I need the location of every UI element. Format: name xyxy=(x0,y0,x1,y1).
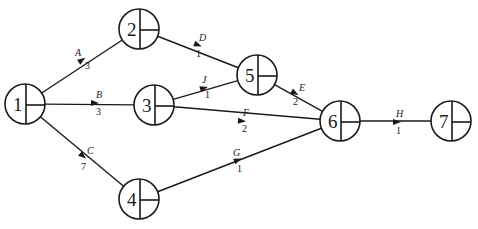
node-2: 2 xyxy=(119,9,159,49)
edge-b xyxy=(45,100,134,106)
node-number: 1 xyxy=(13,94,23,115)
duration-label: 3 xyxy=(85,60,90,71)
activity-label: B xyxy=(96,89,102,100)
duration-label: 1 xyxy=(196,48,201,59)
node-number: 2 xyxy=(127,19,137,40)
activity-label: J xyxy=(202,74,207,85)
duration-label: 1 xyxy=(205,89,210,100)
edge-line xyxy=(45,104,134,105)
node-circle xyxy=(119,179,159,219)
duration-label: 2 xyxy=(242,123,247,134)
network-diagram: 1234567 A3B3C7D1J1E2F2G1H1 xyxy=(0,0,478,229)
duration-label: 7 xyxy=(81,161,86,172)
edge-line xyxy=(42,40,123,93)
edge-g xyxy=(158,128,322,192)
activity-label: G xyxy=(233,147,240,158)
activity-label: H xyxy=(395,108,404,119)
activity-label: E xyxy=(298,82,305,93)
duration-label: 3 xyxy=(96,106,101,117)
edge-c xyxy=(40,117,123,186)
node-number: 4 xyxy=(127,189,137,210)
node-circle xyxy=(237,55,277,95)
node-circle xyxy=(320,101,360,141)
node-number: 7 xyxy=(439,111,449,132)
node-circle xyxy=(134,85,174,125)
node-number: 3 xyxy=(142,95,152,116)
duration-label: 1 xyxy=(396,125,401,136)
duration-label: 1 xyxy=(237,163,242,174)
duration-label: 2 xyxy=(293,96,298,107)
node-1: 1 xyxy=(5,84,45,124)
node-7: 7 xyxy=(431,101,471,141)
node-6: 6 xyxy=(320,101,360,141)
activity-label: A xyxy=(74,47,82,58)
node-4: 4 xyxy=(119,179,159,219)
node-circle xyxy=(119,9,159,49)
node-5: 5 xyxy=(237,55,277,95)
node-3: 3 xyxy=(134,85,174,125)
node-circle xyxy=(5,84,45,124)
node-number: 5 xyxy=(245,65,255,86)
node-circle xyxy=(431,101,471,141)
node-number: 6 xyxy=(328,111,338,132)
edge-a xyxy=(42,40,123,93)
activity-label: D xyxy=(198,32,207,43)
activity-label: F xyxy=(242,107,250,118)
labels-layer: A3B3C7D1J1E2F2G1H1 xyxy=(74,32,404,174)
activity-label: C xyxy=(87,145,94,156)
